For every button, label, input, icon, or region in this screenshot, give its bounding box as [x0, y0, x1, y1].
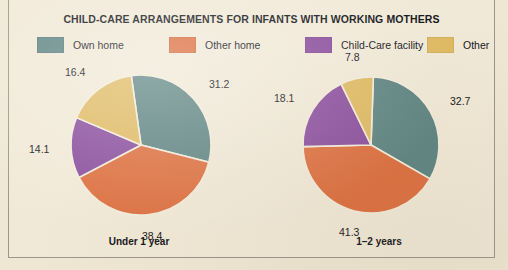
slice-value-label: 14.1 [29, 143, 49, 155]
page-title: CHILD-CARE ARRANGEMENTS FOR INFANTS WITH… [9, 13, 494, 25]
legend-swatch [305, 37, 332, 53]
slice-value-label: 16.4 [65, 66, 85, 78]
legend-label: Other home [205, 39, 260, 51]
pie-chart-under-1-year: 31.238.414.116.4Under 1 year [19, 61, 259, 251]
pie-caption: 1–2 years [259, 236, 499, 247]
legend-item-child-care-facility: Child-Care facility [305, 35, 423, 55]
chart-legend: Own homeOther homeChild-Care facilityOth… [37, 35, 487, 55]
legend-label: Other [463, 39, 489, 51]
legend-label: Child-Care facility [341, 39, 423, 51]
pie-chart-1-2-years: 32.741.318.17.81–2 years [259, 61, 499, 251]
legend-swatch [37, 37, 64, 53]
slice-value-label: 31.2 [209, 78, 229, 90]
legend-item-own-home: Own home [37, 35, 124, 55]
figure-canvas: CHILD-CARE ARRANGEMENTS FOR INFANTS WITH… [0, 0, 508, 270]
legend-item-other-home: Other home [169, 35, 260, 55]
legend-item-other: Other [427, 35, 489, 55]
pie-svg [259, 61, 499, 251]
slice-value-label: 18.1 [274, 92, 294, 104]
slice-value-label: 7.8 [345, 51, 360, 63]
legend-swatch [169, 37, 196, 53]
slice-value-label: 32.7 [450, 95, 470, 107]
legend-label: Own home [73, 39, 124, 51]
legend-swatch [427, 37, 454, 53]
pie-caption: Under 1 year [19, 236, 259, 247]
chart-frame: CHILD-CARE ARRANGEMENTS FOR INFANTS WITH… [8, 0, 495, 258]
